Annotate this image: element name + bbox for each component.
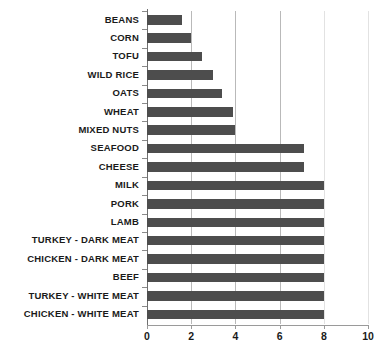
- bar: [147, 236, 324, 246]
- bar: [147, 89, 222, 99]
- y-axis-tick: [142, 140, 147, 141]
- y-axis-tick: [142, 11, 147, 12]
- y-axis-tick: [142, 121, 147, 122]
- bar-row: [147, 11, 368, 28]
- bar: [147, 310, 324, 320]
- y-axis-tick: [142, 48, 147, 49]
- bar: [147, 33, 191, 43]
- y-axis-label: CHICKEN - DARK MEAT: [27, 254, 139, 264]
- y-axis-tick: [142, 232, 147, 233]
- y-axis-label: TURKEY - DARK MEAT: [32, 235, 139, 245]
- plot-area: [147, 11, 368, 324]
- x-axis-tick-label: 4: [232, 330, 238, 342]
- bar: [147, 107, 233, 117]
- y-axis-tick: [142, 250, 147, 251]
- bar-row: [147, 85, 368, 102]
- bar-row: [147, 306, 368, 323]
- y-axis-label: LAMB: [111, 217, 139, 227]
- bar: [147, 125, 235, 135]
- bar-row: [147, 250, 368, 267]
- y-axis-label: WILD RICE: [88, 70, 139, 80]
- bar-row: [147, 48, 368, 65]
- x-axis-tick-label: 0: [144, 330, 150, 342]
- y-axis-label: WHEAT: [104, 107, 139, 117]
- y-axis-label: PORK: [111, 199, 139, 209]
- x-axis-tick: [235, 325, 236, 329]
- bar-chart: BEANSCORNTOFUWILD RICEOATSWHEATMIXED NUT…: [0, 0, 384, 347]
- bar: [147, 162, 304, 172]
- y-axis-label: OATS: [113, 88, 139, 98]
- x-axis-tick-labels: 0246810: [0, 330, 384, 347]
- x-axis-line: [147, 325, 369, 326]
- y-axis-label: TURKEY - WHITE MEAT: [28, 291, 139, 301]
- x-axis-tick: [368, 325, 369, 329]
- x-axis-tick: [191, 325, 192, 329]
- bar: [147, 70, 213, 80]
- y-axis-label: CORN: [110, 33, 139, 43]
- bar-row: [147, 158, 368, 175]
- x-axis-tick-label: 10: [362, 330, 374, 342]
- bar-row: [147, 195, 368, 212]
- bar: [147, 52, 202, 62]
- y-axis-tick: [142, 269, 147, 270]
- y-axis-tick: [142, 158, 147, 159]
- y-axis-label: SEAFOOD: [91, 143, 139, 153]
- bar-row: [147, 29, 368, 46]
- y-axis-tick: [142, 306, 147, 307]
- bar-row: [147, 66, 368, 83]
- y-axis-tick: [142, 29, 147, 30]
- x-axis-tick: [324, 325, 325, 329]
- bar: [147, 181, 324, 191]
- gridline-10: [368, 11, 369, 324]
- y-axis-tick: [142, 85, 147, 86]
- y-axis-label: BEANS: [105, 15, 139, 25]
- bar: [147, 291, 324, 301]
- x-axis-tick-label: 2: [188, 330, 194, 342]
- y-axis-label: MILK: [115, 180, 139, 190]
- bar-row: [147, 177, 368, 194]
- bar: [147, 273, 324, 283]
- bar-row: [147, 287, 368, 304]
- bar-row: [147, 214, 368, 231]
- y-axis-tick: [142, 214, 147, 215]
- y-axis-label: BEEF: [113, 272, 139, 282]
- bar-row: [147, 140, 368, 157]
- y-axis-tick: [142, 103, 147, 104]
- y-axis-tick: [142, 287, 147, 288]
- bar: [147, 199, 324, 209]
- y-axis-tick: [142, 177, 147, 178]
- x-axis-tick-label: 8: [321, 330, 327, 342]
- bar-row: [147, 232, 368, 249]
- bar: [147, 144, 304, 154]
- bar-row: [147, 103, 368, 120]
- bar-row: [147, 269, 368, 286]
- bar-row: [147, 121, 368, 138]
- x-axis-tick: [147, 325, 148, 329]
- bar: [147, 15, 182, 25]
- x-axis-tick: [280, 325, 281, 329]
- y-axis-label: MIXED NUTS: [78, 125, 139, 135]
- y-axis-tick: [142, 195, 147, 196]
- y-axis-category-labels: BEANSCORNTOFUWILD RICEOATSWHEATMIXED NUT…: [0, 11, 143, 324]
- bar: [147, 254, 324, 264]
- y-axis-label: TOFU: [113, 51, 139, 61]
- bar: [147, 218, 324, 228]
- x-axis-tick-label: 6: [277, 330, 283, 342]
- y-axis-label: CHEESE: [99, 162, 139, 172]
- y-axis-tick: [142, 66, 147, 67]
- y-axis-label: CHICKEN - WHITE MEAT: [24, 309, 139, 319]
